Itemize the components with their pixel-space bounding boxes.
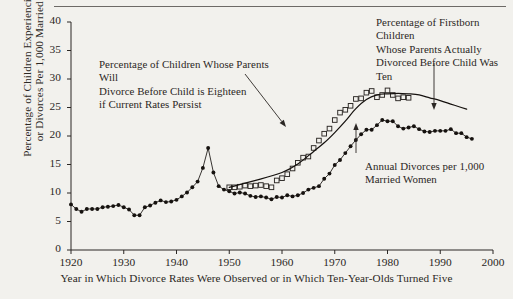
data-point	[101, 205, 105, 209]
x-tick-label: 1950	[206, 256, 252, 268]
chart-figure: Percentage of Children Experiencing Divo…	[0, 0, 513, 299]
x-tick-label: 1990	[417, 256, 463, 268]
x-tick-label: 1970	[312, 256, 358, 268]
data-point	[369, 89, 374, 94]
y-tick-label: 10	[35, 185, 61, 197]
data-point	[470, 137, 474, 141]
data-point	[359, 132, 363, 136]
data-point	[375, 123, 379, 127]
data-point	[201, 166, 205, 170]
data-point	[317, 138, 322, 143]
data-point	[206, 146, 210, 150]
data-point	[465, 135, 469, 139]
data-point	[364, 128, 368, 132]
data-point	[396, 96, 401, 101]
data-point	[438, 129, 442, 133]
data-point	[106, 205, 110, 209]
data-point	[217, 184, 221, 188]
data-point	[180, 194, 184, 198]
x-tick-label: 1930	[101, 256, 147, 268]
data-point	[444, 129, 448, 133]
x-tick-label: 1960	[259, 256, 305, 268]
data-point	[328, 172, 332, 176]
data-point	[433, 129, 437, 133]
data-point	[259, 194, 263, 198]
x-tick-label: 1980	[365, 256, 411, 268]
data-point	[348, 103, 353, 108]
data-point	[238, 190, 242, 194]
data-point	[364, 90, 369, 95]
y-tick-label: 30	[35, 71, 61, 83]
projection-annotation-line-1: Percentage of Children Whose Parents Wil…	[99, 58, 284, 85]
data-point	[401, 95, 406, 100]
data-point	[349, 144, 353, 148]
data-point	[338, 110, 343, 115]
data-point	[396, 124, 400, 128]
y-tick-label: 15	[35, 157, 61, 169]
data-point	[233, 192, 237, 196]
firstborn-annotation: Percentage of Firstborn ChildrenWhose Pa…	[376, 16, 513, 83]
data-point	[69, 202, 73, 206]
data-point	[196, 180, 200, 184]
data-point	[322, 177, 326, 181]
data-point	[270, 197, 274, 201]
y-tick-label: 35	[35, 43, 61, 55]
data-point	[138, 213, 142, 217]
data-point	[312, 186, 316, 190]
data-point	[412, 124, 416, 128]
data-point	[285, 172, 290, 177]
data-point	[280, 196, 284, 200]
data-point	[117, 203, 121, 207]
data-point	[359, 96, 364, 101]
y-tick-label: 20	[35, 128, 61, 140]
data-point	[185, 190, 189, 194]
data-point	[264, 184, 269, 189]
y-tick-label: 0	[35, 242, 61, 254]
data-point	[111, 204, 115, 208]
data-point	[327, 126, 332, 131]
data-point	[449, 127, 453, 131]
data-point	[280, 176, 285, 181]
data-point	[317, 184, 321, 188]
data-point	[222, 188, 226, 192]
data-point	[90, 207, 94, 211]
data-point	[127, 208, 131, 212]
x-tick-label: 1940	[154, 256, 200, 268]
data-point	[274, 178, 279, 183]
data-point	[380, 93, 385, 98]
data-point	[454, 131, 458, 135]
data-point	[211, 171, 215, 175]
data-point	[386, 119, 390, 123]
data-point	[153, 201, 157, 205]
data-point	[122, 205, 126, 209]
y-tick-label: 40	[35, 14, 61, 26]
data-point	[343, 151, 347, 155]
data-point	[380, 118, 384, 122]
data-point	[169, 200, 173, 204]
data-point	[190, 185, 194, 189]
data-point	[343, 107, 348, 112]
data-point	[428, 130, 432, 134]
firstborn-annotation-line-2: Whose Parents Actually	[376, 43, 513, 56]
data-point	[291, 194, 295, 198]
data-point	[354, 97, 359, 102]
data-point	[332, 118, 337, 123]
firstborn-annotation-line-1: Percentage of Firstborn Children	[376, 16, 513, 43]
data-point	[407, 126, 411, 130]
data-point	[333, 163, 337, 167]
data-point	[132, 213, 136, 217]
data-point	[248, 194, 252, 198]
data-point	[243, 192, 247, 196]
data-point	[417, 127, 421, 131]
x-tick-label: 1920	[48, 256, 94, 268]
divorce-rate-annotation: Annual Divorces per 1,000Married Women	[365, 160, 495, 187]
data-point	[401, 127, 405, 131]
firstborn-annotation-line-3: Divorced Before Child Was Ten	[376, 56, 513, 83]
data-point	[459, 131, 463, 135]
divorce-rate-annotation-line-2: Married Women	[365, 173, 495, 186]
projection-annotation: Percentage of Children Whose Parents Wil…	[99, 58, 284, 112]
data-point	[269, 185, 274, 190]
data-point	[422, 129, 426, 133]
x-tick-label: 2000	[470, 256, 513, 268]
data-point	[74, 207, 78, 211]
